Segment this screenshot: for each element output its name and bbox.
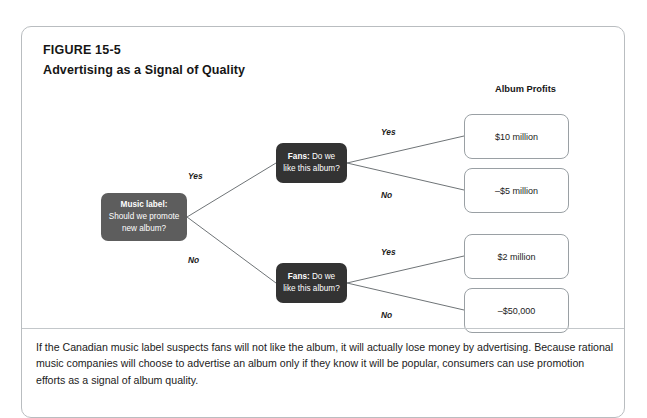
outcome-box-4: –$50,000 bbox=[464, 288, 569, 333]
node-music-label-text: Should we promote new album? bbox=[109, 212, 180, 233]
outcome-box-2: –$5 million bbox=[464, 168, 569, 213]
node-fans-bottom-lead: Fans: bbox=[288, 272, 310, 281]
node-music-label-lead: Music label: bbox=[121, 200, 168, 209]
outcome-value-1: $10 million bbox=[495, 132, 538, 142]
decision-tree-diagram: Album Profits Music label: Should we pro… bbox=[22, 27, 625, 327]
node-music-label: Music label: Should we promote new album… bbox=[101, 193, 187, 241]
outcome-box-3: $2 million bbox=[464, 234, 569, 279]
branch-label-music-no: No bbox=[188, 255, 199, 265]
outcome-value-4: –$50,000 bbox=[498, 306, 536, 316]
branch-label-fans-bottom-yes: Yes bbox=[381, 247, 396, 257]
node-fans-bottom: Fans: Do we like this album? bbox=[276, 263, 347, 303]
branch-label-fans-top-no: No bbox=[381, 190, 392, 200]
branch-label-fans-top-yes: Yes bbox=[381, 127, 396, 137]
outcome-value-3: $2 million bbox=[497, 252, 535, 262]
outcome-value-2: –$5 million bbox=[495, 186, 538, 196]
column-header-album-profits: Album Profits bbox=[473, 84, 578, 94]
branch-label-music-yes: Yes bbox=[188, 171, 203, 181]
node-fans-top: Fans: Do we like this album? bbox=[276, 143, 347, 183]
outcome-box-1: $10 million bbox=[464, 114, 569, 159]
caption-divider bbox=[22, 328, 625, 329]
node-fans-top-lead: Fans: bbox=[288, 152, 310, 161]
figure-caption: If the Canadian music label suspects fan… bbox=[36, 339, 614, 388]
branch-label-fans-bottom-no: No bbox=[381, 310, 392, 320]
figure-frame: FIGURE 15-5 Advertising as a Signal of Q… bbox=[21, 26, 625, 418]
